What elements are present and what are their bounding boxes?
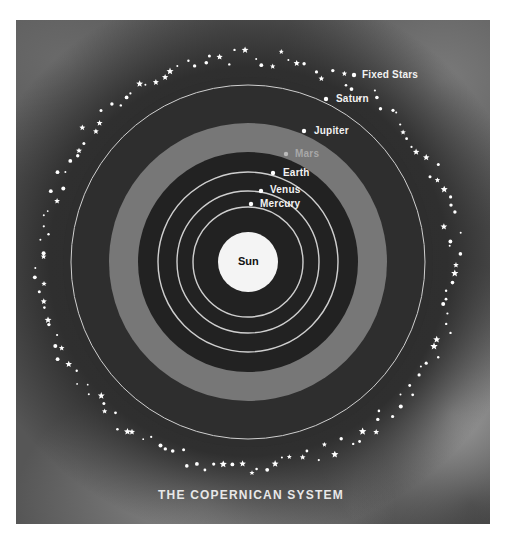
star-icon xyxy=(430,342,437,349)
star-icon xyxy=(182,448,185,451)
star-icon xyxy=(453,262,459,267)
star-icon xyxy=(125,96,129,100)
star-icon xyxy=(98,392,105,399)
star-icon xyxy=(441,223,448,229)
star-icon xyxy=(47,210,49,212)
planet-label-saturn: Saturn xyxy=(336,94,369,104)
star-icon xyxy=(378,410,381,413)
star-icon xyxy=(39,239,41,241)
planet-label-earth: Earth xyxy=(283,168,310,178)
star-icon xyxy=(49,189,53,193)
star-icon xyxy=(451,281,455,285)
star-icon xyxy=(437,356,439,358)
star-icon xyxy=(82,142,85,145)
star-icon xyxy=(144,84,146,86)
star-icon xyxy=(350,87,354,91)
star-icon xyxy=(153,79,159,85)
star-icon xyxy=(110,102,113,105)
planet-dot-saturn xyxy=(324,97,328,101)
star-icon xyxy=(423,154,430,160)
star-icon xyxy=(239,460,246,466)
star-icon xyxy=(185,464,189,468)
star-icon xyxy=(187,60,189,62)
star-icon xyxy=(306,450,309,453)
star-icon xyxy=(411,393,414,396)
star-icon xyxy=(255,58,257,60)
star-icon xyxy=(445,298,448,301)
star-icon xyxy=(391,109,394,112)
star-icon xyxy=(331,69,334,72)
star-icon xyxy=(53,344,57,348)
planet-label-fixed-stars: Fixed Stars xyxy=(362,70,418,80)
star-icon xyxy=(100,109,103,112)
star-icon xyxy=(217,54,223,60)
star-icon xyxy=(45,316,52,323)
star-icon xyxy=(87,384,89,386)
star-icon xyxy=(41,298,47,304)
star-icon xyxy=(429,175,432,178)
star-icon xyxy=(395,112,397,114)
star-icon xyxy=(445,290,447,292)
star-icon xyxy=(124,428,131,435)
star-icon xyxy=(142,438,144,440)
star-icon xyxy=(176,65,178,67)
star-icon xyxy=(272,460,279,467)
star-icon xyxy=(249,470,254,475)
star-icon xyxy=(287,59,289,61)
star-icon xyxy=(352,443,354,445)
star-icon xyxy=(445,323,447,325)
star-icon xyxy=(331,451,338,458)
star-icon xyxy=(342,71,347,76)
star-icon xyxy=(459,252,463,256)
star-icon xyxy=(129,429,135,435)
star-icon xyxy=(391,415,394,418)
star-icon xyxy=(212,463,215,466)
star-icon xyxy=(259,63,263,67)
star-icon xyxy=(228,63,230,65)
star-icon xyxy=(446,312,448,314)
star-icon xyxy=(233,49,235,51)
diagram-caption: THE COPERNICAN SYSTEM xyxy=(158,488,344,502)
star-icon xyxy=(255,468,258,471)
star-icon xyxy=(33,275,37,279)
star-icon xyxy=(441,302,445,306)
star-icon xyxy=(376,418,379,421)
star-icon xyxy=(358,440,361,443)
star-icon xyxy=(279,49,284,54)
planet-label-mercury: Mercury xyxy=(260,199,300,209)
star-icon xyxy=(76,383,78,385)
star-icon xyxy=(47,323,50,326)
star-icon xyxy=(164,447,167,450)
star-icon xyxy=(242,46,249,53)
star-icon xyxy=(56,170,60,174)
star-icon xyxy=(441,186,448,193)
star-icon xyxy=(150,436,152,438)
star-icon xyxy=(43,225,45,227)
star-icon xyxy=(425,362,428,365)
star-icon xyxy=(171,449,175,453)
star-icon xyxy=(399,123,401,125)
star-icon xyxy=(88,393,90,395)
planet-dot-earth xyxy=(271,171,275,175)
star-icon xyxy=(270,64,275,69)
star-icon xyxy=(460,232,462,234)
star-icon xyxy=(405,137,408,140)
star-icon xyxy=(340,437,343,440)
star-icon xyxy=(97,120,103,126)
star-icon xyxy=(265,468,269,472)
star-icon xyxy=(41,281,46,286)
star-icon xyxy=(435,177,440,182)
star-icon xyxy=(59,345,65,350)
star-icon xyxy=(300,454,306,459)
star-icon xyxy=(42,251,46,255)
star-icon xyxy=(162,74,168,80)
star-icon xyxy=(76,370,78,372)
star-icon xyxy=(159,443,163,447)
star-icon xyxy=(231,463,235,467)
star-icon xyxy=(129,92,131,94)
star-icon xyxy=(319,76,325,82)
star-icon xyxy=(43,214,45,216)
star-icon xyxy=(449,195,452,198)
star-icon xyxy=(294,60,300,66)
star-icon xyxy=(399,404,403,408)
